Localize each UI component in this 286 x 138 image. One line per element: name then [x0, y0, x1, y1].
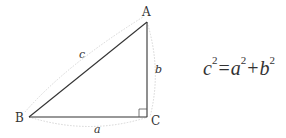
- eq-b: b: [259, 57, 269, 79]
- eq-equals: =: [218, 57, 229, 79]
- vertex-label-c: C: [151, 114, 160, 128]
- right-angle-marker: [139, 109, 147, 117]
- side-label-c: c: [79, 48, 85, 61]
- eq-b-exp: 2: [269, 54, 275, 66]
- vertex-label-b: B: [15, 111, 24, 125]
- eq-c: c: [203, 57, 212, 79]
- eq-c-exp: 2: [212, 54, 218, 66]
- pythagorean-equation: c2=a2+b2: [203, 57, 275, 80]
- side-a-arc: [29, 117, 148, 127]
- eq-plus: +: [247, 57, 258, 79]
- vertex-label-a: A: [141, 5, 151, 19]
- side-label-a: a: [94, 123, 101, 136]
- side-c: [29, 22, 147, 117]
- eq-a: a: [231, 57, 241, 79]
- side-c-arc: [25, 17, 143, 112]
- side-label-b: b: [155, 63, 162, 76]
- eq-a-exp: 2: [241, 54, 247, 66]
